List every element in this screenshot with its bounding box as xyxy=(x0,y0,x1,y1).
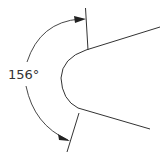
dimension-label: 156° xyxy=(8,67,39,82)
dimension-arc-upper xyxy=(27,19,80,62)
part-outline xyxy=(61,27,160,129)
dimension-arc-lower xyxy=(26,86,68,140)
arrowhead-bottom-icon xyxy=(58,134,70,141)
extension-line-bottom xyxy=(67,113,79,152)
arrowhead-top-icon xyxy=(74,16,86,23)
extension-line-top xyxy=(86,8,89,50)
angle-diagram: 156° xyxy=(0,0,163,160)
